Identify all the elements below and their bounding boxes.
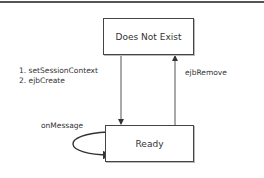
state-does-not-exist: Does Not Exist bbox=[103, 18, 194, 55]
transition-step-2: 2. ejbCreate bbox=[19, 76, 98, 86]
create-transition-label: 1. setSessionContext 2. ejbCreate bbox=[19, 66, 98, 86]
remove-transition-label: ejbRemove bbox=[185, 68, 227, 78]
state-label: Ready bbox=[136, 139, 164, 149]
transition-step-1: 1. setSessionContext bbox=[19, 66, 98, 76]
state-ready: Ready bbox=[105, 125, 194, 162]
state-label: Does Not Exist bbox=[116, 32, 182, 42]
onmessage-transition-label: onMessage bbox=[41, 121, 83, 131]
